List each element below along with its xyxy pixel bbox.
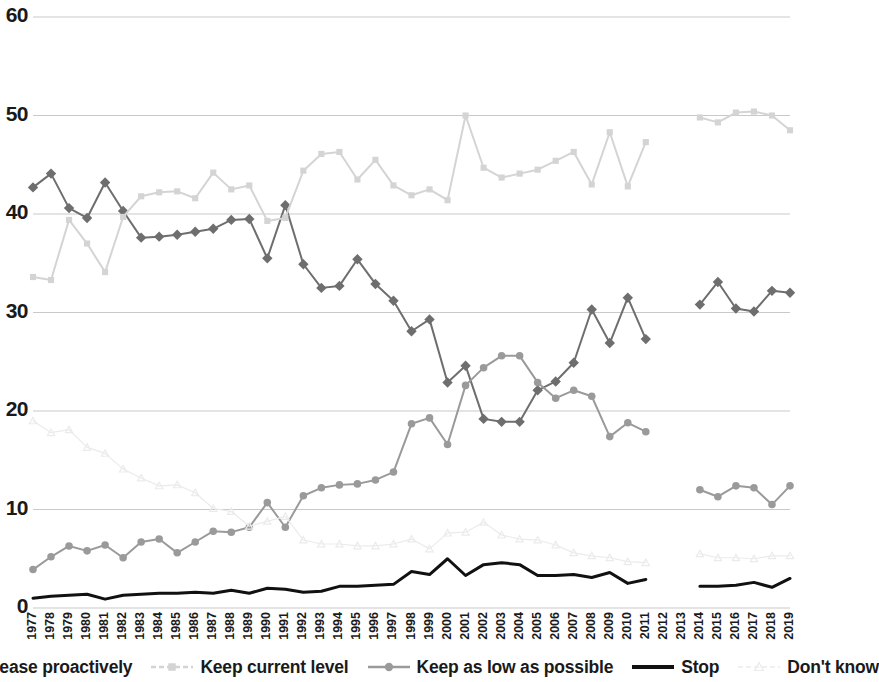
data-point-marker xyxy=(244,214,254,224)
data-point-marker xyxy=(318,151,324,157)
legend-item[interactable]: Keep as low as possible xyxy=(366,657,614,678)
x-axis-tick-label: 1999 xyxy=(423,612,436,640)
data-point-marker xyxy=(426,186,432,192)
legend-item-label: Keep as low as possible xyxy=(417,657,614,678)
x-axis-tick-label: 2010 xyxy=(621,612,634,640)
data-point-marker xyxy=(228,186,234,192)
data-point-marker xyxy=(191,538,199,546)
data-point-marker xyxy=(101,541,109,549)
data-point-marker xyxy=(318,484,326,492)
legend-item[interactable]: Increase proactively xyxy=(0,657,132,678)
x-axis-tick-label: 1993 xyxy=(314,612,327,640)
data-point-marker xyxy=(715,119,721,125)
data-point-marker xyxy=(336,481,344,489)
x-axis-tick-label: 1984 xyxy=(152,612,165,640)
data-point-marker xyxy=(785,288,795,298)
data-point-marker xyxy=(372,157,378,163)
data-point-marker xyxy=(138,193,144,199)
data-point-marker xyxy=(64,203,74,213)
x-axis-tick-label: 2016 xyxy=(729,612,742,640)
x-axis-tick-label: 1997 xyxy=(386,612,399,640)
x-axis-tick-label: 2018 xyxy=(765,612,778,640)
data-point-marker xyxy=(408,420,416,428)
data-point-marker xyxy=(83,547,91,555)
x-axis-tick-label: 1998 xyxy=(405,612,418,640)
data-point-marker xyxy=(408,192,414,198)
data-point-marker xyxy=(102,269,108,275)
data-point-marker xyxy=(480,364,488,372)
data-point-marker xyxy=(154,231,164,241)
x-axis-tick-label: 2002 xyxy=(477,612,490,640)
data-point-marker xyxy=(210,170,216,176)
data-point-marker xyxy=(390,182,396,188)
data-point-marker xyxy=(300,168,306,174)
x-axis-tick-label: 2006 xyxy=(549,612,562,640)
data-point-marker xyxy=(300,492,308,500)
data-point-marker xyxy=(517,171,523,177)
data-point-marker xyxy=(535,167,541,173)
x-axis-tick-label: 1990 xyxy=(260,612,273,640)
legend-item[interactable]: Don't know xyxy=(736,657,879,678)
x-axis-tick-label: 1995 xyxy=(350,612,363,640)
data-point-marker xyxy=(463,112,469,118)
data-point-marker xyxy=(29,566,37,574)
data-point-marker xyxy=(625,183,631,189)
x-axis-tick-label: 2001 xyxy=(459,612,472,640)
x-axis-tick-label: 2004 xyxy=(513,612,526,640)
x-axis-tick-label: 1978 xyxy=(44,612,57,640)
data-point-marker xyxy=(119,554,127,562)
data-point-marker xyxy=(588,392,596,400)
series-line xyxy=(700,578,790,587)
data-point-marker xyxy=(390,468,398,476)
data-point-marker xyxy=(48,277,54,283)
data-point-marker xyxy=(499,174,505,180)
data-point-marker xyxy=(643,139,649,145)
series-stop xyxy=(33,559,790,599)
x-axis-tick-label: 2012 xyxy=(657,612,670,640)
data-point-marker xyxy=(751,109,757,115)
x-axis-tick-label: 1989 xyxy=(242,612,255,640)
x-axis-tick-label: 2011 xyxy=(639,612,652,639)
data-point-marker xyxy=(587,304,597,314)
data-point-marker xyxy=(336,149,342,155)
x-axis-tick-label: 2013 xyxy=(675,612,688,640)
data-point-marker xyxy=(642,428,650,436)
x-axis-tick-label: 2008 xyxy=(585,612,598,640)
data-point-marker xyxy=(514,417,524,427)
x-axis-tick-label: 2007 xyxy=(567,612,580,640)
x-axis-tick-label: 2014 xyxy=(693,612,706,640)
x-axis-tick-label: 1977 xyxy=(26,612,39,640)
x-axis-tick-label: 2003 xyxy=(495,612,508,640)
x-axis-tick-label: 2000 xyxy=(441,612,454,640)
series-line xyxy=(700,554,790,559)
x-axis-tick-label: 2019 xyxy=(783,612,796,640)
data-point-marker xyxy=(120,214,126,220)
data-point-marker xyxy=(444,197,450,203)
data-point-marker xyxy=(264,499,272,507)
data-point-marker xyxy=(534,379,542,387)
data-point-marker xyxy=(226,215,236,225)
data-point-marker xyxy=(768,501,776,509)
data-point-marker xyxy=(354,480,362,488)
x-axis-tick-label: 2005 xyxy=(531,612,544,640)
data-point-marker xyxy=(424,314,434,324)
series-line xyxy=(700,112,790,131)
legend-item-label: Increase proactively xyxy=(0,657,132,678)
data-point-marker xyxy=(481,165,487,171)
data-point-marker xyxy=(84,240,90,246)
data-point-marker xyxy=(444,441,452,449)
data-point-marker xyxy=(262,253,272,263)
x-axis-tick-label: 2015 xyxy=(711,612,724,640)
data-point-marker xyxy=(732,482,740,490)
legend-item-label: Keep current level xyxy=(200,657,348,678)
x-axis-tick-label: 1987 xyxy=(206,612,219,640)
legend-circle-icon xyxy=(366,658,412,676)
series-line xyxy=(700,282,790,312)
x-axis-tick-label: 1996 xyxy=(368,612,381,640)
legend-item[interactable]: Keep current level xyxy=(149,657,348,678)
data-point-marker xyxy=(607,129,613,135)
data-point-marker xyxy=(372,476,380,484)
chart-legend: Increase proactivelyKeep current levelKe… xyxy=(0,652,796,682)
x-axis-tick-label: 2009 xyxy=(603,612,616,640)
legend-item[interactable]: Stop xyxy=(630,657,719,678)
